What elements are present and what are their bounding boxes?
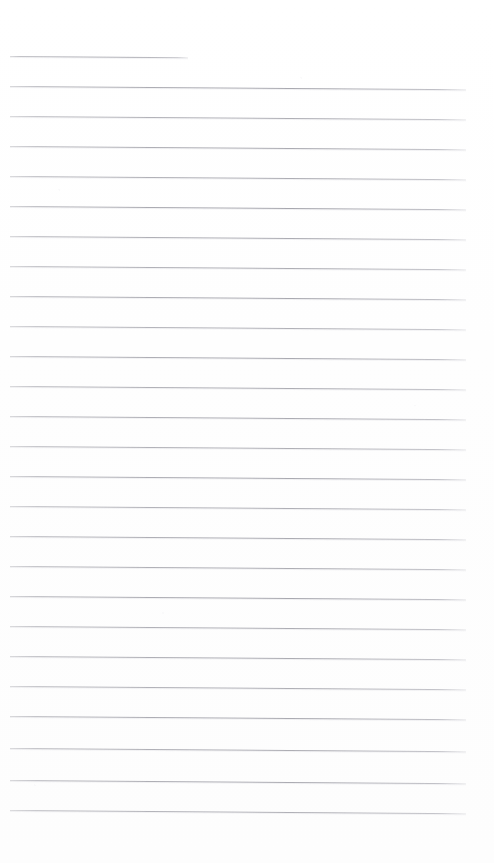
rule-line	[10, 116, 466, 120]
rule-line	[10, 536, 466, 540]
rule-line	[10, 266, 466, 270]
ruled-lines-layer	[0, 0, 494, 863]
rule-line	[10, 506, 466, 510]
rule-line	[10, 356, 466, 360]
rule-line	[10, 236, 466, 240]
rule-line	[10, 146, 466, 150]
rule-line	[10, 780, 466, 784]
rule-line	[10, 596, 466, 600]
rule-line	[10, 416, 466, 420]
rule-line	[10, 326, 466, 330]
rule-line	[10, 748, 466, 752]
rule-line	[10, 446, 466, 450]
rule-line	[10, 206, 466, 210]
rule-line	[10, 716, 466, 720]
rule-line	[10, 86, 466, 90]
scanned-page	[0, 0, 494, 863]
rule-line	[10, 686, 466, 690]
rule-line	[10, 296, 466, 300]
rule-line	[10, 176, 466, 180]
rule-line	[10, 626, 466, 630]
rule-line	[10, 566, 466, 570]
rule-line	[10, 810, 466, 814]
rule-line	[10, 656, 466, 660]
rule-line	[10, 56, 188, 58]
rule-line	[10, 476, 466, 480]
rule-line	[10, 386, 466, 390]
